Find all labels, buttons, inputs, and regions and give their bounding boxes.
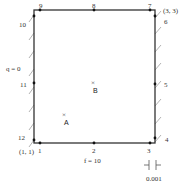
bc-bottom-label: f = 10 [84,157,101,165]
node-label-12: 12 [18,134,26,142]
node-label-8: 8 [92,2,96,10]
node-label-11: 11 [20,81,27,89]
node-label-7: 7 [148,2,152,10]
domain-boundary [34,10,155,143]
point-b-marker: × [91,79,95,87]
node-label-5: 5 [164,81,168,89]
corner-coord-top-right: (3, 3) [163,7,179,15]
node-label-2: 2 [92,147,96,155]
point-b-label: B [93,87,98,94]
node-label-9: 9 [39,2,43,10]
corner-coord-bottom-left: (1, 1) [19,148,35,156]
point-a-label: A [64,119,69,126]
scale-label: 0.001 [146,175,162,183]
node-label-10: 10 [19,21,27,29]
node-label-6: 6 [164,18,168,26]
point-a-marker: × [62,111,66,119]
right-hatching [155,11,161,142]
node-label-4: 4 [165,136,169,144]
node-label-3: 3 [147,147,151,155]
bc-left-label: q = 0 [6,65,21,73]
node-label-1: 1 [38,147,42,155]
boundary-element-diagram: 1 2 3 4 5 6 7 8 9 10 11 12 (1, 1) (3, 3)… [0,0,186,190]
left-hatching [29,15,34,147]
scale-marker-icon [144,160,161,170]
node-dots [33,9,157,145]
